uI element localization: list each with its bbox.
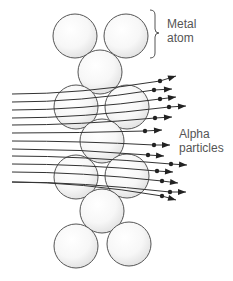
arrowhead-icon — [156, 153, 164, 159]
alpha-particle-dot — [158, 97, 162, 101]
arrowhead-icon — [164, 114, 172, 120]
metal-atom — [104, 14, 148, 58]
alpha-particles-label-line1: Alpha — [179, 127, 210, 141]
alpha-particle-dot — [160, 194, 164, 198]
metal-atom-lattice — [53, 14, 151, 268]
alpha-particle-dot — [153, 116, 157, 120]
arrowhead-icon — [178, 189, 186, 195]
arrowhead-icon — [167, 195, 176, 201]
arrowhead-icon — [178, 103, 186, 109]
metal-atom-label-line2: atom — [167, 31, 194, 45]
alpha-particle-dot — [143, 129, 147, 133]
alpha-particle-dot — [167, 105, 171, 109]
alpha-particle-dot — [169, 162, 173, 166]
alpha-particle-dot — [155, 169, 159, 173]
alpha-particle-dot — [158, 79, 162, 83]
alpha-particle-dot — [152, 143, 156, 147]
metal-atom — [53, 14, 97, 58]
arrowhead-icon — [170, 179, 178, 185]
arrowhead-icon — [168, 95, 176, 101]
alpha-particles-label-line2: particles — [179, 141, 224, 155]
alpha-particle-dot — [168, 190, 172, 194]
alpha-particle-dot — [152, 88, 156, 92]
arrowhead-icon — [154, 127, 162, 133]
metal-atom-label-line1: Metal — [167, 17, 196, 31]
metal-atom — [107, 222, 151, 266]
arrowhead-icon — [165, 169, 173, 175]
brace-icon — [150, 10, 159, 58]
arrowhead-icon — [164, 86, 172, 92]
metal-atom — [54, 224, 98, 268]
arrowhead-icon — [179, 162, 187, 168]
alpha-particle-dot — [146, 153, 150, 157]
alpha-particle-dot — [160, 179, 164, 183]
arrowhead-icon — [162, 142, 170, 148]
arrowhead-icon — [167, 76, 176, 82]
alpha-scattering-diagram: Metal atom Alpha particles — [0, 0, 233, 281]
